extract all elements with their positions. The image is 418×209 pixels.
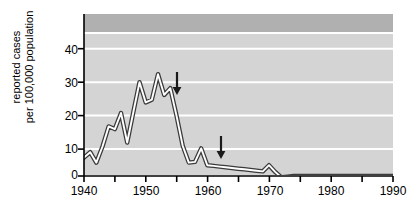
chart-canvas	[0, 0, 418, 209]
x-axis-ticks	[84, 176, 393, 182]
y-axis-ticks	[78, 49, 84, 176]
plot-background	[84, 14, 393, 175]
title-band	[84, 14, 393, 33]
polio-incidence-chart: reported cases per 100,000 population po…	[0, 0, 418, 209]
